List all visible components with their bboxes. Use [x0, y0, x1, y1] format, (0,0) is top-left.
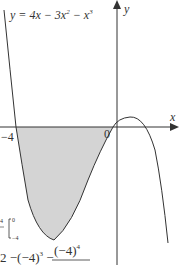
upper-limit: 0 [12, 217, 15, 223]
origin-label: 0 [104, 127, 110, 141]
fraction-numerator: (−4)4 [54, 243, 81, 258]
y-axis-label: y [123, 2, 130, 16]
x-axis-label: x [169, 110, 176, 124]
working-expression: 2 −(−4)3 − [0, 250, 54, 265]
x-intercept-label: −4 [1, 130, 14, 144]
cubic-graph: y = 4x − 3x2 − x3 y x 0 −4 4 0 −4 2 −(−4… [0, 0, 179, 265]
limits-bracket [9, 219, 11, 238]
y-axis-arrow-icon [113, 0, 121, 9]
lower-limit: −4 [12, 235, 18, 241]
equation-label: y = 4x − 3x2 − x3 [9, 8, 93, 22]
x-axis-arrow-icon [170, 123, 179, 131]
fraction-fragment: 4 [0, 218, 3, 224]
shaded-area [16, 127, 113, 240]
